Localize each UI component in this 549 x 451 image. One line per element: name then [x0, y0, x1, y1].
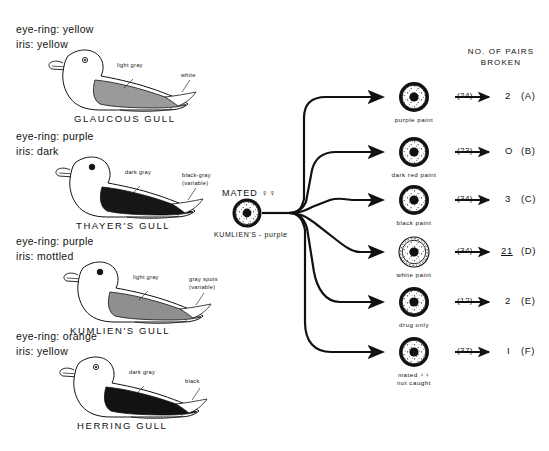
- branch-node-not-caught: [399, 337, 429, 367]
- gull-illustration-glaucous: [49, 50, 196, 111]
- branch-label-3: white paint: [384, 271, 444, 279]
- root-node-circle: [233, 199, 262, 228]
- branch-count-2: (34): [457, 194, 473, 203]
- branch-lines: [262, 97, 383, 352]
- gull-illustration-herring: [60, 357, 207, 418]
- result-arrows: [455, 97, 489, 352]
- gull-eye-ring-label-2: eye-ring: purple: [16, 234, 94, 249]
- branch-tag-1: (B): [521, 145, 535, 156]
- root-mated-label: MATED ♀♀: [222, 188, 277, 198]
- gull-iris-label-3: iris: yellow: [16, 344, 68, 359]
- gull-wingtip-label-1: black-gray: [182, 172, 211, 179]
- root-species-label: KUMLIEN'S - purple: [214, 231, 288, 238]
- gull-wingtip-sublabel-2: (variable): [189, 284, 215, 291]
- results-header-line-2: BROKEN: [455, 57, 547, 68]
- branch-node-white-paint: [399, 237, 429, 267]
- gull-iris-label-1: iris: dark: [16, 144, 59, 159]
- gull-mantle-label-0: light gray: [117, 62, 143, 69]
- branch-label-2: black paint: [384, 219, 444, 227]
- branch-count-3: (34): [457, 246, 473, 255]
- branch-result-1: O: [505, 145, 513, 156]
- gull-wingtip-label-0: white: [181, 72, 196, 79]
- branch-label-0: purple paint: [384, 116, 444, 124]
- branch-tag-0: (A): [521, 90, 535, 101]
- gull-mantle-label-2: light gray: [133, 274, 159, 281]
- gull-wingtip-label-3: black: [185, 378, 200, 385]
- branch-result-0: 2: [505, 90, 511, 101]
- gull-eye-ring-label-0: eye-ring: yellow: [16, 22, 94, 37]
- gull-mantle-label-1: dark gray: [125, 169, 151, 176]
- branch-tag-5: (F): [521, 345, 535, 356]
- branch-label-5: mated ♀♀: [386, 371, 442, 379]
- gull-wingtip-sublabel-1: (variable): [182, 180, 208, 187]
- figure-canvas: eye-ring: yellow iris: yellow light gray…: [0, 0, 549, 451]
- gull-eye-ring-label-1: eye-ring: purple: [16, 129, 94, 144]
- branch-count-0: (24): [457, 91, 473, 100]
- branch-label-1: dark red paint: [380, 171, 448, 179]
- gull-species-name-3: HERRING GULL: [77, 420, 167, 431]
- branch-result-4: 2: [505, 295, 511, 306]
- branch-label-4: drug only: [386, 321, 442, 329]
- branch-node-purple-paint: [399, 82, 429, 112]
- gull-species-name-0: GLAUCOUS GULL: [74, 113, 176, 124]
- branch-count-5: (37): [457, 346, 473, 355]
- branch-tag-3: (D): [521, 245, 536, 256]
- gull-wingtip-label-2: gray spots: [189, 276, 218, 283]
- gull-iris-label-0: iris: yellow: [16, 37, 68, 52]
- branch-result-3: 21: [501, 245, 513, 256]
- branch-result-2: 3: [505, 193, 511, 204]
- branch-count-4: (12): [457, 296, 473, 305]
- branch-sublabel-5: not caught: [386, 379, 442, 387]
- gull-illustration-kumliens: [64, 262, 211, 323]
- branch-result-5: I: [507, 345, 510, 356]
- gull-mantle-label-3: dark gray: [129, 369, 155, 376]
- branch-node-drug-only: [399, 287, 429, 317]
- branch-node-dark-red-paint: [399, 137, 429, 167]
- results-header-line-1: NO. OF PAIRS: [455, 46, 547, 57]
- gull-illustration-thayers: [56, 157, 203, 218]
- gull-eye-ring-label-3: eye-ring: orange: [16, 329, 97, 344]
- gull-iris-label-2: iris: mottled: [16, 249, 74, 264]
- gull-species-name-1: THAYER'S GULL: [76, 220, 170, 231]
- branch-node-black-paint: [399, 185, 429, 215]
- branch-tag-4: (E): [521, 295, 535, 306]
- branch-count-1: (23): [457, 146, 473, 155]
- branch-tag-2: (C): [521, 193, 536, 204]
